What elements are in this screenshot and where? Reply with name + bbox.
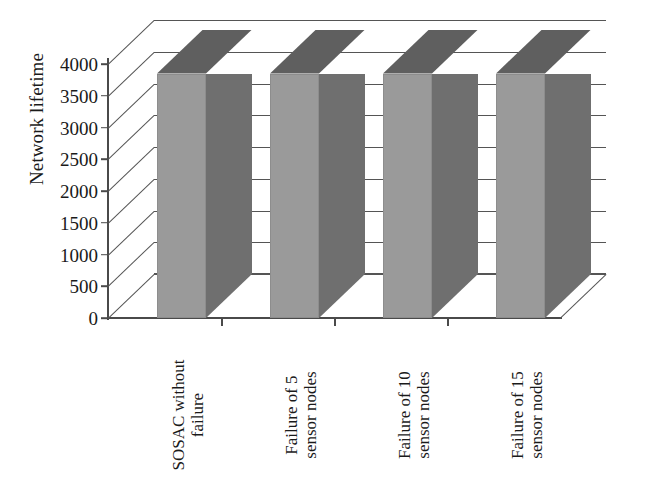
bar-side-face	[545, 74, 591, 318]
bar[interactable]	[270, 30, 365, 318]
gridline	[154, 20, 606, 21]
category-label-line-1: Failure of 5	[281, 375, 300, 454]
x-axis-tick-mark	[221, 317, 223, 326]
bar[interactable]	[383, 30, 478, 318]
bar-top-face	[157, 30, 252, 76]
x-axis-tick-mark	[447, 317, 449, 326]
category-label-line-2: failure	[188, 340, 207, 483]
bar-top-face	[383, 30, 478, 76]
plot-area: SOSAC withoutfailureFailure of 5sensor n…	[0, 0, 652, 483]
bar-front-face	[270, 74, 319, 318]
bar-side-face	[319, 74, 365, 318]
bar-front-face	[383, 74, 432, 318]
bar-top-face	[496, 30, 591, 76]
category-label-line-1: Failure of 10	[394, 371, 413, 459]
x-axis-category-label: SOSAC withoutfailure	[168, 340, 206, 483]
bar-front-face	[157, 74, 206, 318]
bar-side-face	[432, 74, 478, 318]
x-axis-tick-mark	[334, 317, 336, 326]
x-axis-category-label: Failure of 15sensor nodes	[507, 340, 545, 483]
x-axis-category-label: Failure of 10sensor nodes	[394, 340, 432, 483]
category-label-line-2: sensor nodes	[301, 340, 320, 483]
bar-side-face	[206, 74, 252, 318]
x-axis-category-label: Failure of 5sensor nodes	[281, 340, 319, 483]
bar[interactable]	[157, 30, 252, 318]
bar-front-face	[496, 74, 545, 318]
category-label-line-2: sensor nodes	[527, 340, 546, 483]
bar[interactable]	[496, 30, 591, 318]
chart-container: Network lifetime 05001000150020002500300…	[0, 0, 652, 483]
category-label-line-2: sensor nodes	[414, 340, 433, 483]
category-label-line-1: Failure of 15	[507, 371, 526, 459]
bar-top-face	[270, 30, 365, 76]
category-label-line-1: SOSAC without	[168, 360, 187, 471]
